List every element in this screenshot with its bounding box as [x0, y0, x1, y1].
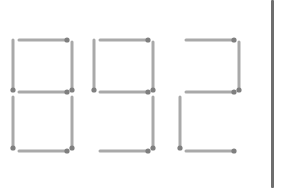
matchstick-digits	[0, 0, 303, 188]
matchstick-bottom-right[interactable]	[150, 97, 155, 151]
matchstick-top-left[interactable]	[10, 40, 15, 93]
panel-divider	[271, 0, 274, 188]
matchstick-middle[interactable]	[100, 89, 151, 94]
match-head-icon	[64, 148, 69, 153]
match-head-icon	[64, 37, 69, 42]
matchstick-bottom-left[interactable]	[10, 97, 15, 151]
match-head-icon	[145, 37, 150, 42]
matchstick-top[interactable]	[100, 37, 151, 42]
match-head-icon	[231, 89, 236, 94]
match-head-icon	[64, 89, 69, 94]
matchstick-bottom-right[interactable]	[69, 97, 74, 151]
matchstick-top[interactable]	[186, 37, 237, 42]
match-head-icon	[231, 37, 236, 42]
digit-3-2	[177, 37, 241, 153]
matchstick-bottom[interactable]	[19, 148, 70, 153]
match-head-icon	[10, 87, 15, 92]
matchstick-middle[interactable]	[19, 89, 70, 94]
matchstick-top-right[interactable]	[69, 42, 74, 93]
match-head-icon	[69, 87, 74, 92]
matchstick-top-right[interactable]	[150, 42, 155, 93]
matchstick-bottom-left[interactable]	[177, 97, 182, 151]
match-head-icon	[150, 87, 155, 92]
matchstick-board	[0, 0, 303, 188]
match-head-icon	[145, 89, 150, 94]
digit-2-9	[91, 37, 155, 153]
matchstick-top-left[interactable]	[91, 40, 96, 93]
match-head-icon	[69, 145, 74, 150]
match-head-icon	[91, 87, 96, 92]
match-head-icon	[231, 148, 236, 153]
matchstick-top[interactable]	[19, 37, 70, 42]
matchstick-bottom[interactable]	[100, 148, 151, 153]
matchstick-bottom[interactable]	[186, 148, 237, 153]
match-head-icon	[177, 145, 182, 150]
match-head-icon	[10, 145, 15, 150]
digit-1-8	[10, 37, 74, 153]
matchstick-top-right[interactable]	[236, 42, 241, 93]
match-head-icon	[236, 87, 241, 92]
match-head-icon	[145, 148, 150, 153]
match-head-icon	[150, 145, 155, 150]
matchstick-middle[interactable]	[186, 89, 237, 94]
